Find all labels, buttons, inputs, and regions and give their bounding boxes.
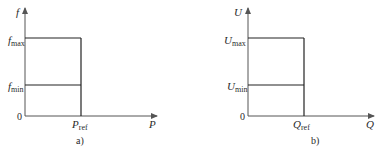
caption-b: b) <box>311 135 319 147</box>
fmin-label: fmin <box>8 80 24 94</box>
caption-a: a) <box>76 135 84 147</box>
fmax-label: fmax <box>8 34 25 48</box>
y-axis-label: U <box>234 6 243 18</box>
x-axis-label: P <box>148 118 156 130</box>
panel-b: U Umax Umin 0 Qref Q b) <box>224 6 374 147</box>
qref-label: Qref <box>293 118 310 132</box>
origin-label: 0 <box>240 111 245 122</box>
y-axis-label: f <box>16 6 21 18</box>
umin-label: Umin <box>227 80 247 94</box>
diagram-canvas: f fmax fmin 0 Pref P a) U Umax Umin 0 Qr… <box>0 0 381 153</box>
origin-label: 0 <box>17 111 22 122</box>
pref-label: Pref <box>71 118 88 132</box>
panel-a: f fmax fmin 0 Pref P a) <box>8 6 157 147</box>
umax-label: Umax <box>224 34 246 48</box>
x-axis-label: Q <box>366 118 374 130</box>
